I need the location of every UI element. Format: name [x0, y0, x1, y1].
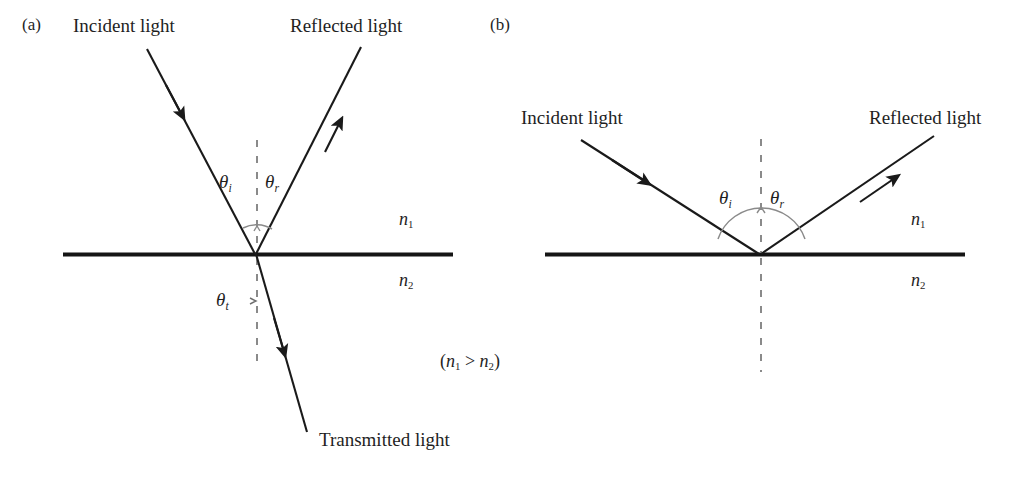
- n-subscript: 2: [408, 279, 413, 291]
- incident-ray-arrow-b: [612, 160, 646, 182]
- n-subscript: 1: [920, 218, 925, 230]
- optics-figure: (a) Incident light Reflected light Trans…: [0, 0, 1021, 484]
- panel-b-theta-incident-label: θi: [719, 188, 732, 207]
- condition-sub-b: 2: [489, 360, 494, 372]
- panel-b-n1-label: n1: [911, 210, 925, 228]
- panel-b-incident-light-label: Incident light: [521, 108, 623, 127]
- panel-b-n2-label: n2: [911, 271, 925, 289]
- panel-a-theta-reflected-label: θr: [265, 172, 279, 191]
- n-symbol: n: [399, 209, 408, 229]
- n-symbol: n: [911, 209, 920, 229]
- panel-a-theta-incident-label: θi: [219, 172, 232, 191]
- condition-close-paren: ): [494, 351, 500, 371]
- panel-a-graphics: [63, 47, 453, 432]
- reflected-ray-a: [256, 47, 361, 254]
- incident-ray-a: [147, 49, 255, 254]
- reflected-ray-arrow-a: [325, 122, 340, 152]
- panel-a-theta-transmitted-label: θt: [216, 290, 229, 309]
- theta-symbol: θ: [770, 187, 779, 208]
- panel-b-theta-reflected-label: θr: [770, 188, 784, 207]
- figure-vector-layer: [0, 0, 1021, 484]
- incident-ray-b: [581, 140, 759, 254]
- theta-subscript: t: [226, 300, 229, 313]
- panel-b-graphics: [545, 136, 965, 372]
- panel-a-index-condition-label: (n1 > n2): [440, 352, 500, 370]
- n-symbol: n: [911, 270, 920, 290]
- n-subscript: 2: [920, 279, 925, 291]
- theta-subscript: r: [275, 182, 280, 195]
- panel-a-incident-light-label: Incident light: [73, 16, 175, 35]
- condition-symbol-b: n: [480, 351, 489, 371]
- theta-symbol: θ: [265, 171, 274, 192]
- panel-a-tag: (a): [22, 16, 41, 33]
- theta-subscript: i: [229, 182, 232, 195]
- n-subscript: 1: [408, 218, 413, 230]
- theta-symbol: θ: [219, 171, 228, 192]
- panel-a-reflected-light-label: Reflected light: [290, 16, 402, 35]
- condition-operator: >: [460, 351, 479, 371]
- panel-a-transmitted-light-label: Transmitted light: [319, 430, 450, 449]
- condition-symbol-a: n: [446, 351, 455, 371]
- transmitted-ray-arrow-a: [274, 318, 284, 352]
- angle-arc-tick-a: [254, 226, 260, 231]
- incident-ray-arrow-a: [166, 85, 182, 115]
- panel-a-n1-label: n1: [399, 210, 413, 228]
- panel-a-n2-label: n2: [399, 271, 413, 289]
- theta-subscript: r: [780, 198, 785, 211]
- reflected-ray-b: [761, 136, 934, 254]
- theta-symbol: θ: [216, 289, 225, 310]
- panel-b-reflected-light-label: Reflected light: [869, 108, 981, 127]
- n-symbol: n: [399, 270, 408, 290]
- theta-symbol: θ: [719, 187, 728, 208]
- reflected-ray-arrow-b: [860, 178, 895, 202]
- panel-b-tag: (b): [490, 16, 510, 33]
- angle-tick-transmitted-a: [250, 298, 256, 304]
- condition-sub-a: 1: [455, 360, 460, 372]
- theta-subscript: i: [729, 198, 732, 211]
